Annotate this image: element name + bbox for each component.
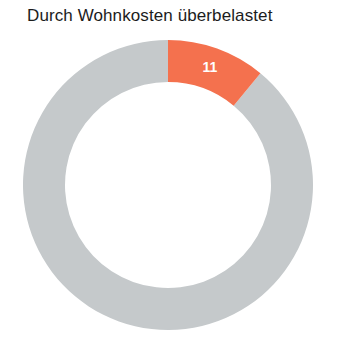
donut-slice-rest[interactable] xyxy=(23,40,313,330)
donut-slices xyxy=(23,40,313,330)
page-title: Durch Wohnkosten überbelastet xyxy=(27,5,327,27)
donut-chart-svg: 11 xyxy=(0,30,343,360)
donut-chart-area: 11 xyxy=(0,30,343,360)
slice-value-label: 11 xyxy=(203,59,218,75)
donut-chart-figure: Durch Wohnkosten überbelastet 11 xyxy=(0,0,343,360)
